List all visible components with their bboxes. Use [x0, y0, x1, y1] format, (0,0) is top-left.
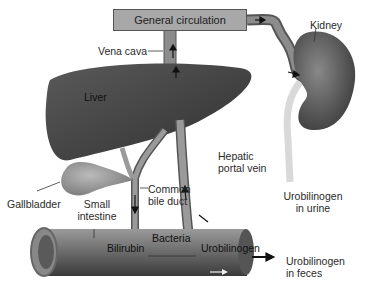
gallbladder-label: Gallbladder [7, 198, 61, 210]
kidney-label: Kidney [310, 19, 342, 31]
hepatic-label-line2: portal vein [218, 162, 266, 174]
ureter [287, 82, 300, 182]
small-intestine-line1: Small [72, 198, 122, 210]
bile-duct-line2: bile duct [148, 195, 191, 207]
small-intestine-line2: intestine [72, 210, 122, 222]
small-intestine-label: Small intestine [72, 198, 122, 222]
feces-line2: in feces [286, 267, 345, 279]
feces-line1: Urobilinogen [286, 255, 345, 267]
hepatic-portal-vein-label: Hepatic portal vein [218, 150, 266, 174]
hepatic-label-line1: Hepatic [218, 150, 266, 162]
urine-line2: in urine [268, 202, 358, 214]
bilirubin-label: Bilirubin [107, 242, 144, 254]
common-bile-duct [135, 130, 165, 230]
urobilinogen-intestine-label: Urobilinogen [201, 242, 260, 254]
gallbladder-organ [61, 162, 133, 195]
general-circulation-box: General circulation [113, 9, 247, 31]
vena-cava-label: Vena cava [98, 45, 147, 57]
urobilinogen-feces-label: Urobilinogen in feces [286, 255, 345, 279]
urine-line1: Urobilinogen [268, 190, 358, 202]
kidney-organ [294, 32, 356, 131]
bacteria-label: Bacteria [152, 232, 191, 244]
urobilinogen-urine-label: Urobilinogen in urine [268, 190, 358, 214]
liver-label: Liver [84, 91, 107, 103]
bile-duct-line1: Common [148, 183, 191, 195]
diagram-canvas [0, 0, 365, 288]
common-bile-duct-label: Common bile duct [148, 183, 191, 207]
